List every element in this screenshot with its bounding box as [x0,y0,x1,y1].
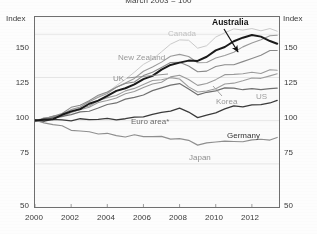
y-tick-right-75: 75 [284,148,314,157]
series-label-australia: Australia [212,17,248,27]
chart-title: March 2003 = 100 [0,0,317,5]
series-label-new-zealand: New Zealand [118,53,165,62]
series-label-japan: Japan [189,153,211,162]
x-tick-2012: 2012 [230,213,270,222]
y-tick-right-50: 50 [284,201,314,210]
series-label-euro-area: Euro area* [131,117,169,126]
plot-area [34,16,280,208]
y-axis-label-left: Index [6,14,26,23]
series-label-korea: Korea [216,97,237,106]
x-tick-2006: 2006 [122,213,162,222]
y-tick-right-100: 100 [284,113,314,122]
series-canvas [35,17,279,207]
series-line-new-zealand [35,35,277,121]
x-tick-2000: 2000 [14,213,54,222]
series-label-us: US [256,92,267,101]
y-tick-left-125: 125 [0,78,29,87]
y-tick-left-75: 75 [0,148,29,157]
y-tick-left-150: 150 [0,43,29,52]
y-tick-right-150: 150 [284,43,314,52]
series-label-germany: Germany [227,131,260,140]
chart-root: March 2003 = 100 Index Index 150 125 100… [0,0,317,234]
series-label-canada: Canada [168,29,196,38]
x-tick-2004: 2004 [86,213,126,222]
y-tick-right-125: 125 [284,78,314,87]
x-tick-2008: 2008 [158,213,198,222]
y-tick-left-100: 100 [0,113,29,122]
y-axis-label-right: Index [283,14,303,23]
x-tick-2002: 2002 [50,213,90,222]
x-tick-2010: 2010 [194,213,234,222]
series-label-uk: UK [113,74,124,83]
series-line-euro-area [35,84,277,121]
y-tick-left-50: 50 [0,201,29,210]
